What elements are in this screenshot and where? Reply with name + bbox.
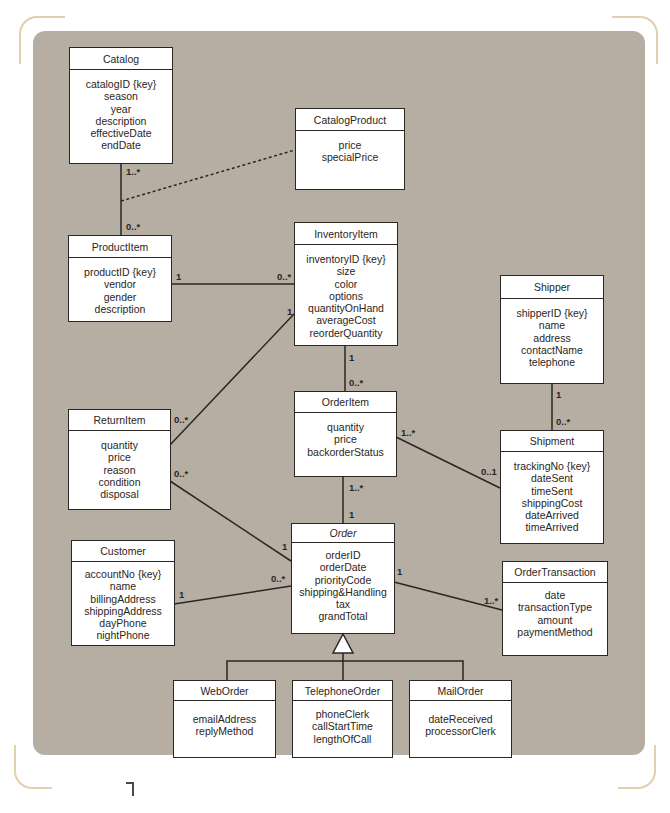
attribute-list: quantity price backorderStatus [295,413,396,458]
attribute: address [501,332,603,344]
class-name: Shipper [501,276,603,299]
class-name: Order [292,524,394,543]
attribute: vendor [69,278,171,290]
attribute: options [295,290,397,302]
attribute: productID {key} [69,266,171,278]
multiplicity-label: 1 [179,590,184,600]
generalization-arrowhead [333,634,353,653]
class-name: Catalog [70,48,172,70]
multiplicity-label: 0..* [556,417,570,427]
class-order: Order orderID orderDate priorityCode shi… [291,523,395,634]
attribute: year [70,103,172,115]
attribute: price [296,139,404,151]
multiplicity-label: 1..* [484,596,498,606]
attribute: season [70,90,172,102]
attribute: billingAddress [72,593,174,605]
attribute: dayPhone [72,617,174,629]
attribute-list: trackingNo {key} dateSent timeSent shipp… [501,452,603,534]
attribute-list: dateReceived processorClerk [410,701,511,738]
attribute-list: quantity price reason condition disposal [69,431,170,500]
class-name: ProductItem [69,236,171,258]
class-name: TelephoneOrder [293,681,392,701]
class-shipment: Shipment trackingNo {key} dateSent timeS… [500,430,604,544]
attribute: effectiveDate [70,127,172,139]
attribute: averageCost [295,314,397,326]
class-name: MailOrder [410,681,511,701]
attribute: specialPrice [296,151,404,163]
class-return-item: ReturnItem quantity price reason conditi… [68,409,171,510]
attribute: shippingCost [501,497,603,509]
attribute: transactionType [503,601,607,613]
multiplicity-label: 1 [397,567,402,577]
class-shipper: Shipper shipperID {key} name address con… [500,275,604,384]
attribute-list: orderID orderDate priorityCode shipping&… [292,543,394,623]
attribute: condition [69,476,170,488]
attribute-list: shipperID {key} name address contactName… [501,299,603,368]
multiplicity-label: 1..* [349,483,363,493]
class-name: OrderItem [295,392,396,413]
assoc-customer-order [174,586,291,604]
assoc-returnitem-order [170,481,291,561]
class-mail-order: MailOrder dateReceived processorClerk [409,680,512,758]
class-name: ReturnItem [69,410,170,431]
attribute: accountNo {key} [72,568,174,580]
attribute: endDate [70,139,172,151]
attribute: lengthOfCall [293,733,392,745]
attribute: grandTotal [292,610,394,622]
multiplicity-label: 1 [282,542,287,552]
attribute: name [72,580,174,592]
attribute: size [295,265,397,277]
multiplicity-label: 0..1 [481,467,497,477]
multiplicity-label: 0..* [174,469,188,479]
attribute: orderDate [292,561,394,573]
class-customer: Customer accountNo {key} name billingAdd… [71,540,175,646]
attribute: backorderStatus [295,446,396,458]
multiplicity-label: 1..* [126,167,140,177]
attribute: priorityCode [292,574,394,586]
class-order-item: OrderItem quantity price backorderStatus [294,391,397,477]
attribute: dateArrived [501,509,603,521]
attribute: replyMethod [174,725,275,737]
attribute: inventoryID {key} [295,253,397,265]
attribute: shipping&Handling [292,586,394,598]
attribute: quantityOnHand [295,302,397,314]
attribute: emailAddress [174,713,275,725]
multiplicity-label: 0..* [174,415,188,425]
class-telephone-order: TelephoneOrder phoneClerk callStartTime … [292,680,393,758]
attribute: dateReceived [410,713,511,725]
attribute-list: productID {key} vendor gender descriptio… [69,258,171,315]
attribute-list: catalogID {key} season year description … [70,70,172,152]
class-name: OrderTransaction [503,562,607,583]
attribute-list: emailAddress replyMethod [174,701,275,738]
multiplicity-label: 1..* [401,428,415,438]
attribute: name [501,319,603,331]
multiplicity-label: 1 [349,353,354,363]
attribute: quantity [69,439,170,451]
attribute: orderID [292,549,394,561]
attribute-list: date transactionType amount paymentMetho… [503,583,607,638]
attribute: disposal [69,488,170,500]
page-corner-mark [126,782,134,796]
attribute: timeSent [501,485,603,497]
attribute: color [295,278,397,290]
attribute: telephone [501,356,603,368]
attribute: quantity [295,421,396,433]
attribute: trackingNo {key} [501,460,603,472]
class-catalog-product: CatalogProduct price specialPrice [295,108,405,190]
multiplicity-label: 1 [349,510,354,520]
attribute: callStartTime [293,720,392,732]
class-product-item: ProductItem productID {key} vendor gende… [68,235,172,322]
attribute: amount [503,614,607,626]
attribute-list: phoneClerk callStartTime lengthOfCall [293,701,392,745]
class-web-order: WebOrder emailAddress replyMethod [173,680,276,758]
assoc-orderitem-shipment [396,437,500,488]
attribute: tax [292,598,394,610]
attribute: phoneClerk [293,708,392,720]
class-name: InventoryItem [295,223,397,245]
attribute: price [69,451,170,463]
assoc-inventoryitem-returnitem [170,314,294,445]
generalization-branch [227,661,463,680]
multiplicity-label: 0..* [271,574,285,584]
attribute: date [503,589,607,601]
attribute: processorClerk [410,725,511,737]
